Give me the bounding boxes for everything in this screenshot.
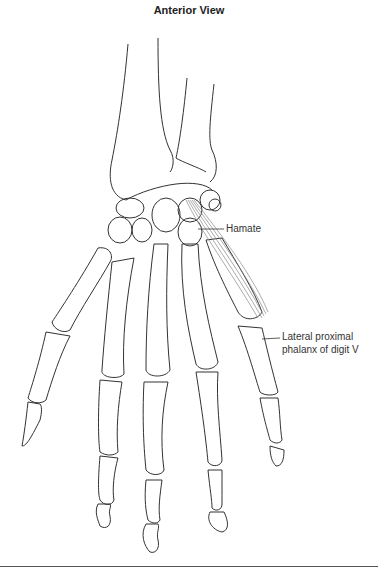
hamate-label: Hamate: [226, 223, 261, 235]
digit-iv: [182, 244, 228, 532]
bottom-rule-divider: [0, 566, 378, 567]
forearm-bones: [110, 38, 216, 200]
hand-skeleton-illustration: [0, 0, 378, 572]
digit-v: [206, 238, 284, 466]
phalanx-label-line1: Lateral proximal: [282, 331, 353, 343]
digit-ii: [96, 258, 134, 528]
muscle-fibers: [186, 200, 268, 318]
carpal-bones: [108, 183, 221, 246]
digit-iii: [143, 244, 170, 552]
phalanx-label-line2: phalanx of digit V: [282, 344, 359, 356]
